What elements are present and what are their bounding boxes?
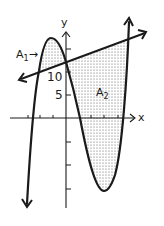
y-axis-label: y (61, 17, 68, 28)
y-tick-label-10: 10 (47, 71, 62, 83)
region-a2-shading (66, 39, 129, 191)
x-axis-label: x (138, 112, 145, 123)
arrow-right-icon: → (29, 48, 38, 61)
y-tick-label-5: 5 (55, 89, 63, 101)
region-a1-letter: A (16, 48, 24, 61)
region-a2-subscript: 2 (104, 92, 109, 101)
region-a1-subscript: 1 (24, 54, 29, 63)
region-a2-label: A2 (96, 87, 109, 98)
region-a1-label: A1→ (16, 49, 38, 60)
region-a2-letter: A (96, 86, 104, 99)
